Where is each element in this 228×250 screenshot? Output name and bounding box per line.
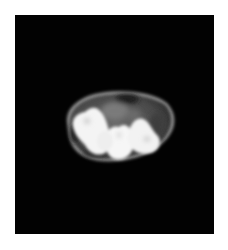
ct-slice-image <box>15 15 214 234</box>
scan-frame <box>15 15 214 234</box>
